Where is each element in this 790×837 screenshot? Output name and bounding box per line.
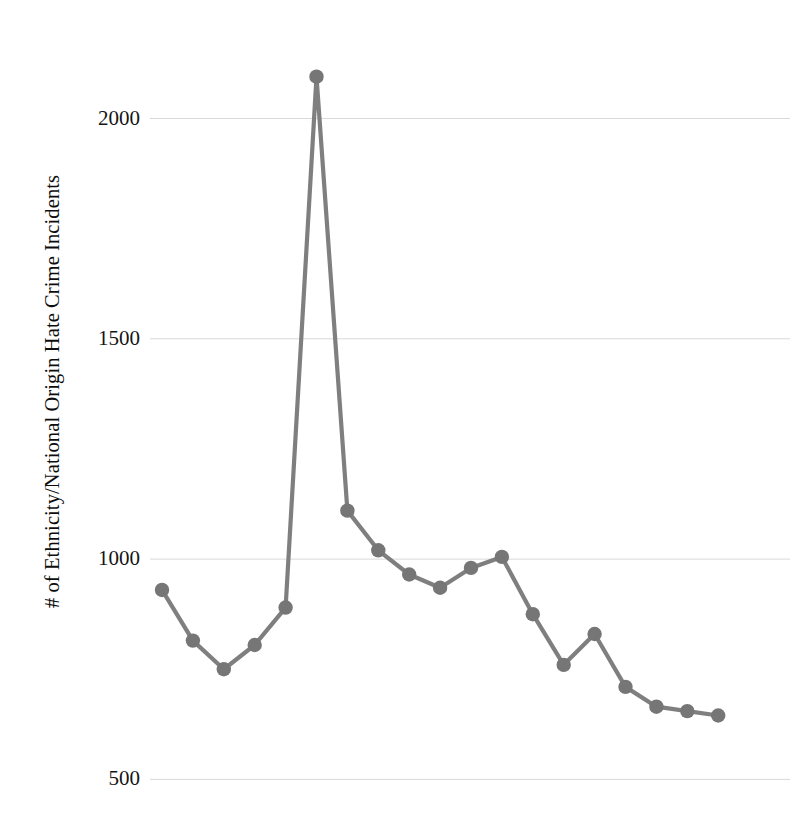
data-point: [495, 550, 509, 564]
data-point: [526, 607, 540, 621]
data-point: [711, 708, 725, 722]
plot-svg: [0, 0, 790, 837]
data-point: [649, 700, 663, 714]
data-point: [309, 69, 323, 83]
data-point: [155, 583, 169, 597]
data-point: [587, 627, 601, 641]
data-point: [186, 633, 200, 647]
plot-area: [0, 0, 790, 837]
data-point: [680, 704, 694, 718]
data-point: [278, 600, 292, 614]
data-point: [340, 503, 354, 517]
data-point: [402, 567, 416, 581]
gridlines: [150, 119, 790, 780]
data-point: [557, 658, 571, 672]
data-point: [464, 561, 478, 575]
data-point: [371, 543, 385, 557]
data-point: [217, 662, 231, 676]
data-point: [433, 581, 447, 595]
data-point: [248, 638, 262, 652]
series-line: [162, 77, 718, 716]
series-markers: [155, 69, 726, 722]
data-point: [618, 680, 632, 694]
line-chart: # of Ethnicity/National Origin Hate Crim…: [0, 0, 790, 837]
